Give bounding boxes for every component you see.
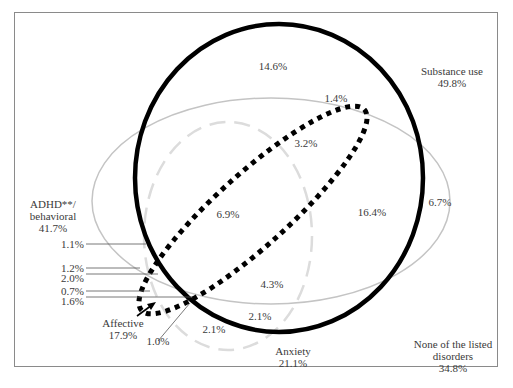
substance-use-label: Substance use 49.8%: [412, 65, 492, 89]
region-anxiety-only: 2.1%: [198, 323, 230, 335]
adhd-behavioral-ellipse: [92, 98, 450, 304]
none-name: None of the listed: [408, 338, 498, 350]
adhd-name: ADHD**/: [22, 198, 84, 210]
affective-label: Affective 17.9%: [98, 317, 148, 341]
anxiety-ellipse: [144, 122, 312, 350]
region-left-1-6: 1.6%: [44, 295, 84, 307]
region-substance-only: 14.6%: [253, 60, 293, 72]
none-label: None of the listed disorders 34.8%: [408, 338, 498, 374]
region-adhd-affective-anxiety: 6.9%: [212, 208, 244, 220]
anxiety-label: Anxiety 21.1%: [268, 345, 318, 369]
venn-diagram: [0, 0, 513, 388]
region-adhd-only: 6.7%: [424, 196, 456, 208]
region-substance-adhd-affective: 3.2%: [290, 137, 322, 149]
region-left-2-0: 2.0%: [44, 272, 84, 284]
adhd-name-2: behavioral: [22, 210, 84, 222]
affective-name: Affective: [98, 317, 148, 329]
region-substance-affective-top: 1.4%: [320, 92, 352, 104]
region-all-four: 4.3%: [256, 278, 288, 290]
region-left-1-1: 1.1%: [44, 238, 84, 250]
anxiety-value: 21.1%: [268, 357, 318, 369]
region-substance-adhd: 16.4%: [352, 206, 392, 218]
adhd-label: ADHD**/ behavioral 41.7%: [22, 198, 84, 234]
affective-value: 17.9%: [98, 329, 148, 341]
none-name-2: disorders: [408, 350, 498, 362]
region-substance-anxiety: 2.1%: [244, 310, 276, 322]
region-callout-1-0: 1.0%: [142, 335, 174, 347]
substance-use-name: Substance use: [412, 65, 492, 77]
adhd-value: 41.7%: [22, 222, 84, 234]
anxiety-name: Anxiety: [268, 345, 318, 357]
none-value: 34.8%: [408, 362, 498, 374]
substance-use-value: 49.8%: [412, 77, 492, 89]
